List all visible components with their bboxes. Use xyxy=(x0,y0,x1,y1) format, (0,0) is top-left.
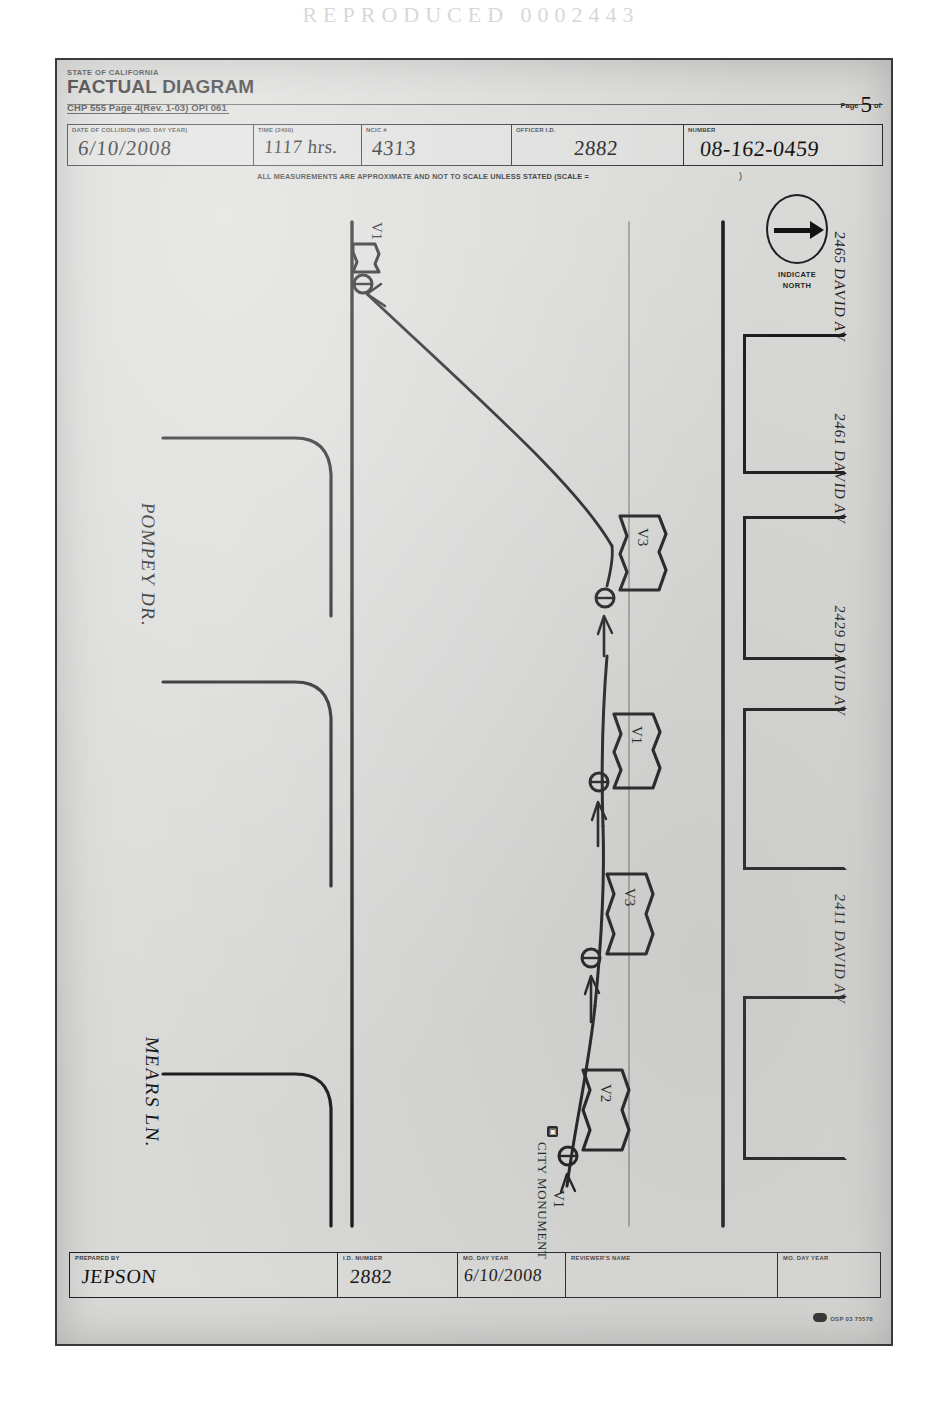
field-value: 2882 xyxy=(349,1265,393,1288)
form-title: FACTUAL DIAGRAM xyxy=(67,76,883,97)
scale-note: ALL MEASUREMENTS ARE APPROXIMATE AND NOT… xyxy=(67,172,883,184)
printer-mark-icon xyxy=(813,1313,827,1322)
parcel-address: 2465 DAVID AV xyxy=(831,231,848,343)
street-label-pompey: POMPEY DR. xyxy=(137,502,159,629)
field-value: 4313 xyxy=(371,136,417,161)
footer-prepared-by[interactable]: PREPARED BY JEPSON xyxy=(70,1253,338,1297)
vehicle-label-v3-upper: V3 xyxy=(634,528,651,546)
footer-review-date[interactable]: MO. DAY YEAR 6/10/2008 xyxy=(458,1253,566,1297)
page-of-label: of xyxy=(874,101,881,110)
parcel-address: 2429 DAVID AV xyxy=(831,605,848,717)
footer-reviewers-name[interactable]: REVIEWER'S NAME xyxy=(566,1253,778,1297)
parcel-address: 2411 DAVID AV xyxy=(831,893,848,1005)
vehicle-label-v2: V2 xyxy=(597,1084,614,1102)
field-time[interactable]: TIME (2400) 1117 hrs. xyxy=(254,125,362,165)
header-divider xyxy=(67,104,883,105)
factual-diagram-canvas: INDICATE NORTH 2465 DAVID AV 2461 DAVID … xyxy=(67,186,883,1244)
field-label: MO. DAY YEAR xyxy=(783,1255,828,1261)
page-number-field: Page5of xyxy=(840,92,881,118)
vehicle-label-v3-lower: V3 xyxy=(621,888,638,906)
field-value: 2882 xyxy=(573,136,619,161)
parcel-2429: 2429 DAVID AV xyxy=(743,708,847,870)
field-value: 6/10/2008 xyxy=(463,1265,543,1286)
parcel-address: 2461 DAVID AV xyxy=(831,413,848,525)
field-officer-id[interactable]: OFFICER I.D. 2882 xyxy=(512,125,684,165)
field-date-of-collision[interactable]: DATE OF COLLISION (MO. DAY YEAR) 6/10/20… xyxy=(68,125,254,165)
field-label: TIME (2400) xyxy=(258,127,294,133)
vehicle-label-v1: V1 xyxy=(628,726,645,744)
page-number-value: 5 xyxy=(860,92,872,117)
field-report-number[interactable]: NUMBER 08-162-0459 xyxy=(684,125,882,165)
north-arrow-icon xyxy=(766,194,828,264)
field-value: JEPSON xyxy=(81,1265,158,1288)
field-label: DATE OF COLLISION (MO. DAY YEAR) xyxy=(72,127,188,133)
field-label: OFFICER I.D. xyxy=(516,127,556,133)
field-label: NUMBER xyxy=(688,127,716,133)
field-label: PREPARED BY xyxy=(75,1255,120,1261)
street-label-mears: MEARS LN. xyxy=(141,1036,163,1149)
scan-header-text: REPRODUCED 0002443 xyxy=(0,2,942,28)
city-monument-label: CITY MONUMENT xyxy=(534,1142,550,1259)
header-field-row: DATE OF COLLISION (MO. DAY YEAR) 6/10/20… xyxy=(67,124,883,166)
op-code-text: OSP 03 75578 xyxy=(830,1316,873,1322)
footer-reviewer-date[interactable]: MO. DAY YEAR xyxy=(778,1253,880,1297)
field-label: I.D. NUMBER xyxy=(343,1255,382,1261)
path-label-v1: V1 xyxy=(550,1190,567,1208)
field-value: 1117 hrs. xyxy=(263,136,339,158)
field-value: 6/10/2008 xyxy=(77,136,173,161)
form-footer-row: PREPARED BY JEPSON I.D. NUMBER 2882 MO. … xyxy=(69,1252,881,1298)
scale-note-close: ) xyxy=(739,171,742,181)
footer-id-number[interactable]: I.D. NUMBER 2882 xyxy=(338,1253,458,1297)
field-label: MO. DAY YEAR xyxy=(463,1255,508,1261)
field-ncic[interactable]: NCIC # 4313 xyxy=(362,125,512,165)
field-label: REVIEWER'S NAME xyxy=(571,1255,630,1261)
path-label-final-rest: V1 xyxy=(368,222,385,240)
page-label: Page xyxy=(840,101,858,110)
form-header: STATE OF CALIFORNIA FACTUAL DIAGRAM CHP … xyxy=(67,68,883,120)
chp-555-form-sheet: STATE OF CALIFORNIA FACTUAL DIAGRAM CHP … xyxy=(55,58,893,1346)
field-label: NCIC # xyxy=(366,127,387,133)
form-op-code: OSP 03 75578 xyxy=(813,1313,873,1322)
parcel-2411: 2411 DAVID AV xyxy=(743,996,847,1160)
scale-note-text: ALL MEASUREMENTS ARE APPROXIMATE AND NOT… xyxy=(257,172,589,181)
field-value: 08-162-0459 xyxy=(699,136,820,162)
scanned-page: REPRODUCED 0002443 STATE OF CALIFORNIA F… xyxy=(0,0,942,1420)
city-monument-icon: ▣ xyxy=(547,1126,558,1137)
